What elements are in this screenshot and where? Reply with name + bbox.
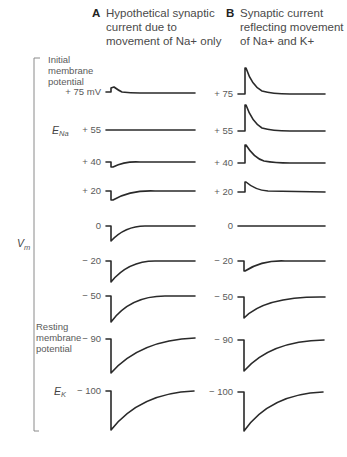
- trace-b-m20: [238, 261, 325, 271]
- trace-a-m20: [106, 261, 195, 282]
- a-label-40: + 40: [82, 156, 101, 167]
- trace-b-20: [238, 182, 325, 192]
- initial-label-1: Initial: [48, 54, 70, 65]
- a-label-0: 0: [96, 220, 101, 231]
- trace-b-m100: [238, 392, 323, 431]
- b-label-m90: − 90: [214, 334, 233, 345]
- e-na-label: ENa: [52, 124, 69, 138]
- trace-a-40: [106, 162, 195, 167]
- panel-b-title-3: of Na+ and K+: [240, 35, 314, 47]
- a-label-20: + 20: [82, 185, 101, 196]
- a-label-m50: − 50: [82, 290, 101, 301]
- a-label-m20: − 20: [82, 255, 101, 266]
- b-label-40: + 40: [214, 157, 233, 168]
- panel-b-title-1: Synaptic current: [240, 7, 324, 19]
- a-label-m100: − 100: [77, 385, 101, 396]
- a-label-m90: − 90: [82, 333, 101, 344]
- trace-b-m90: [238, 340, 324, 371]
- b-label-55: + 55: [214, 125, 233, 136]
- trace-a-0: [106, 226, 195, 241]
- panel-a-letter: A: [92, 7, 100, 19]
- trace-a-20: [106, 191, 195, 200]
- panel-b-title-2: reflecting movement: [240, 21, 344, 33]
- resting-label-2: membrane: [36, 332, 81, 343]
- resting-label-3: potential: [36, 343, 72, 354]
- panel-b-letter: B: [226, 7, 234, 19]
- trace-b-40: [238, 145, 325, 163]
- resting-label-1: Resting: [36, 321, 68, 332]
- panel-a-title-1: Hypothetical synaptic: [106, 7, 215, 19]
- vm-bracket: [34, 58, 40, 431]
- trace-b-m50: [238, 297, 325, 318]
- trace-a-m100: [106, 391, 194, 430]
- b-label-0: 0: [228, 220, 233, 231]
- b-label-20: + 20: [214, 186, 233, 197]
- trace-a-m50: [106, 296, 195, 322]
- e-k-label: EK: [54, 385, 67, 399]
- trace-a-m90: [106, 338, 195, 373]
- a-label-55: + 55: [82, 124, 101, 135]
- b-label-m20: − 20: [214, 255, 233, 266]
- trace-b-75: [238, 68, 325, 94]
- vm-label: Vm: [17, 237, 30, 252]
- b-label-m100: − 100: [209, 386, 233, 397]
- a-label-75: + 75 mV: [65, 86, 101, 97]
- b-label-m50: − 50: [214, 291, 233, 302]
- trace-b-55: [238, 105, 325, 131]
- panel-a-title-2: current due to: [106, 21, 177, 33]
- panel-a-title-3: movement of Na+ only: [106, 35, 222, 47]
- synaptic-current-figure: A Hypothetical synaptic current due to m…: [0, 0, 347, 457]
- initial-label-2: membrane: [48, 65, 93, 76]
- b-label-75: + 75: [214, 88, 233, 99]
- trace-a-75: [106, 87, 195, 93]
